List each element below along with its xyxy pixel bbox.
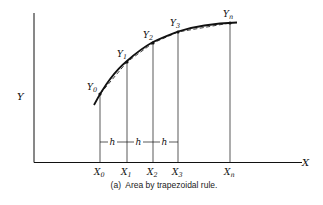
x-axis-label: X	[301, 157, 310, 168]
diagram-svg: Y X Y0 Y1 Y2 Y3 Yn h h h	[0, 0, 323, 205]
y-axis-label: Y	[17, 91, 25, 102]
function-curve	[94, 23, 237, 106]
label-x3: X3	[171, 167, 183, 179]
label-y3: Y3	[170, 18, 180, 30]
label-x2: X2	[146, 167, 158, 179]
h-label-3: h	[162, 137, 168, 147]
h-label-2: h	[136, 137, 142, 147]
label-y1: Y1	[117, 49, 127, 61]
h-label-1: h	[110, 137, 116, 147]
label-x0: X0	[93, 167, 105, 179]
point-yn	[228, 21, 231, 24]
label-y0: Y0	[87, 82, 97, 94]
label-xn: Xn	[223, 167, 235, 179]
figure-caption: (a) Area by trapezoidal rule.	[111, 180, 218, 190]
point-y3	[176, 30, 179, 33]
trapezoidal-rule-figure: Y X Y0 Y1 Y2 Y3 Yn h h h	[0, 0, 323, 205]
point-y0	[98, 92, 101, 95]
x-tick-labels: X0 X1 X2 X3 Xn	[93, 167, 235, 179]
label-x1: X1	[120, 167, 132, 179]
label-y2: Y2	[143, 30, 153, 42]
label-yn: Yn	[223, 9, 233, 21]
